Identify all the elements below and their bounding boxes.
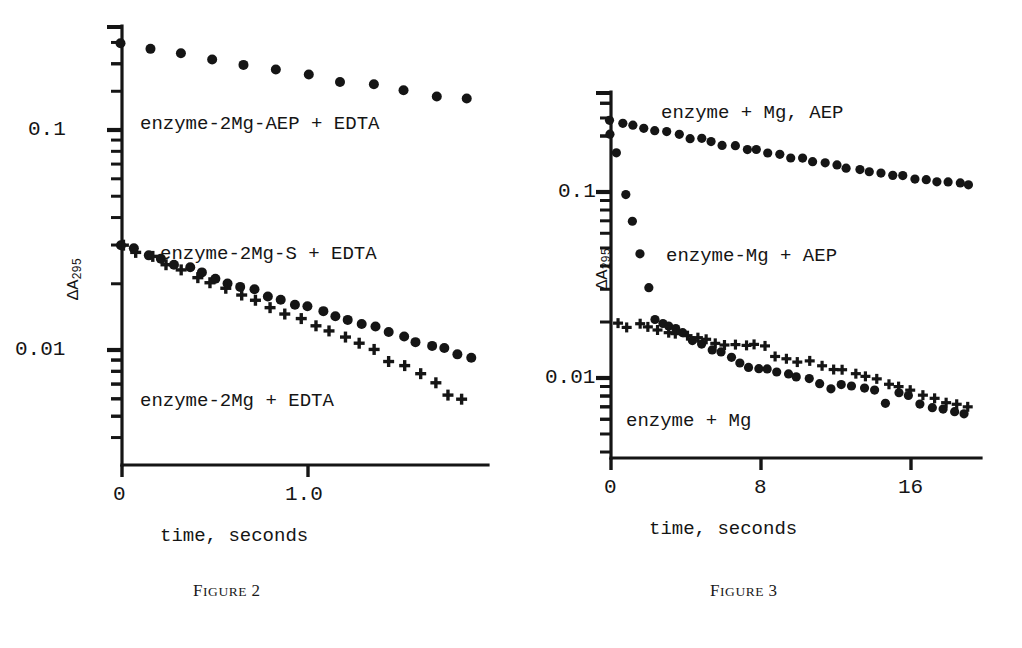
figure-3-y-axis-title-main: ΔA: [593, 270, 612, 290]
figure-2-caption-rest: IGURE: [203, 584, 247, 599]
figure-3-panel: 0.1 0.01 0 8 16 ΔA295 time, seconds enzy…: [511, 0, 1022, 648]
figure-2-plot: [0, 0, 511, 648]
figure-3-series-label-enzyme-mg-plus-aep: enzyme-Mg + AEP: [666, 245, 837, 267]
figure-2-y-axis-title-main: ΔA: [64, 280, 83, 300]
figure-2-y-tick-label-0.01: 0.01: [15, 338, 65, 361]
figure-2-series-label-enzyme-2mg-edta: enzyme-2Mg + EDTA: [140, 390, 334, 412]
figure-2-x-axis-title: time, seconds: [160, 525, 308, 547]
figure-2-y-axis-title: ΔA295: [64, 258, 85, 300]
figure-3-y-tick-label-0.01: 0.01: [545, 366, 595, 389]
figure-2-x-tick-label-1.0: 1.0: [285, 483, 323, 506]
figure-3-caption-num-value: 3: [768, 581, 777, 600]
figure-2-y-axis-title-subscript: 295: [71, 258, 85, 280]
figure-3-plot: [511, 0, 1022, 648]
figure-3-series-label-enzyme-mg: enzyme + Mg: [626, 410, 751, 432]
figure-3-x-axis-title: time, seconds: [649, 518, 797, 540]
figure-3-caption-lead: F: [710, 581, 720, 600]
figure-3-x-tick-label-16: 16: [898, 476, 923, 499]
figure-2-caption-num-value: 2: [251, 581, 260, 600]
figure-3-x-tick-label-0: 0: [604, 476, 617, 499]
figure-2-series-label-enzyme-2mg-s-edta: enzyme-2Mg-S + EDTA: [160, 243, 377, 265]
figure-3-y-tick-label-0.1: 0.1: [558, 180, 596, 203]
figure-2-y-tick-label-0.1: 0.1: [28, 118, 66, 141]
figure-3-y-axis-title-subscript: 295: [600, 248, 614, 270]
figure-3-series-label-enzyme-mg-aep-comma: enzyme + Mg, AEP: [661, 102, 843, 124]
figure-2-panel: 0.1 0.01 0 1.0 ΔA295 time, seconds enzym…: [0, 0, 511, 648]
figure-2-series-label-enzyme-2mg-aep-edta: enzyme-2Mg-AEP + EDTA: [140, 113, 379, 135]
figure-3-y-axis-title: ΔA295: [593, 248, 614, 290]
figure-3-caption: FIGURE 3: [710, 581, 777, 601]
figure-3-caption-rest: IGURE: [720, 584, 764, 599]
figure-2-caption-lead: F: [193, 581, 203, 600]
figure-3-x-tick-label-8: 8: [754, 476, 767, 499]
figure-2-x-tick-label-0: 0: [113, 483, 126, 506]
figure-2-caption: FIGURE 2: [193, 581, 260, 601]
